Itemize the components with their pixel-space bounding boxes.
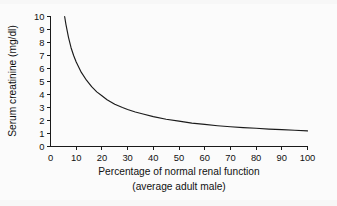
y-axis-title: Serum creatinine (mg/dl)	[7, 25, 18, 137]
y-tick-label: 5	[39, 76, 44, 87]
x-tick-label: 60	[199, 152, 209, 163]
chart-canvas: 012345678910 0102030405060708090100 Seru…	[0, 0, 337, 206]
y-tick-label: 9	[39, 24, 44, 35]
x-tick-label: 80	[251, 152, 261, 163]
x-axis-subtitle: (average adult male)	[132, 181, 225, 192]
y-tick-label: 4	[39, 89, 44, 100]
y-tick-label: 3	[39, 102, 44, 113]
x-tick-label: 0	[48, 152, 53, 163]
y-tick-label: 7	[39, 50, 44, 61]
x-axis-ticks: 0102030405060708090100	[48, 147, 315, 163]
y-tick-label: 8	[39, 37, 44, 48]
x-tick-label: 50	[174, 152, 184, 163]
axes-group	[51, 17, 308, 147]
y-axis-ticks: 012345678910	[34, 11, 50, 152]
x-tick-label: 100	[300, 152, 316, 163]
y-tick-label: 2	[39, 115, 44, 126]
x-tick-label: 30	[122, 152, 132, 163]
y-tick-label: 1	[39, 128, 44, 139]
x-tick-label: 70	[225, 152, 235, 163]
x-tick-label: 10	[71, 152, 81, 163]
x-tick-label: 40	[148, 152, 158, 163]
x-axis-title: Percentage of normal renal function	[98, 166, 259, 177]
x-tick-label: 90	[277, 152, 287, 163]
y-tick-label: 0	[39, 141, 44, 152]
data-series-group	[65, 17, 308, 131]
y-tick-label: 6	[39, 63, 44, 74]
axis-lines	[51, 17, 308, 147]
y-tick-label: 10	[34, 11, 44, 22]
figure-container: 012345678910 0102030405060708090100 Seru…	[0, 0, 337, 206]
x-tick-label: 20	[97, 152, 107, 163]
creatinine-curve	[65, 17, 308, 131]
